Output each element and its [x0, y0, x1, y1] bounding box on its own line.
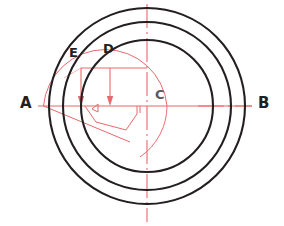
label-d: D	[103, 42, 114, 55]
figure-canvas: A B C D E	[0, 0, 284, 226]
label-b: B	[258, 96, 269, 111]
label-a: A	[20, 96, 32, 111]
arrow-d-head	[107, 96, 113, 106]
red-chord-lower-left	[44, 106, 131, 142]
geometric-drawing	[0, 0, 284, 226]
axis-marker-arrow	[92, 104, 98, 112]
label-e: E	[69, 46, 78, 59]
red-construction-arc-lower	[140, 106, 167, 157]
label-c-center: C	[155, 88, 165, 101]
